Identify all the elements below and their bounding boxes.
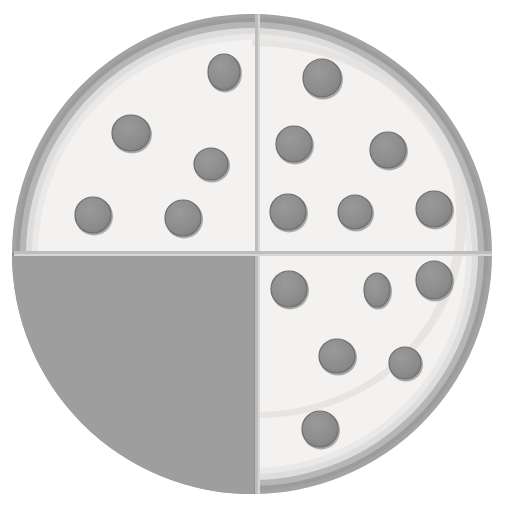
vertical-cut-line-shade [258,14,260,500]
pepperoni-body [75,197,111,233]
horizontal-cut-line-shade [14,254,492,256]
pepperoni-body [303,59,341,97]
pepperoni-body [319,339,355,373]
pepperoni-body [389,347,421,379]
pepperoni-body [416,261,452,299]
pepperoni-body [370,132,406,168]
pepperoni-body [276,126,312,162]
pepperoni-body [364,273,390,307]
pepperoni-body [271,271,307,307]
pepperoni-body [338,195,372,229]
pepperoni-body [270,194,306,230]
pizza-graphic [0,0,505,513]
empty-slice-bottom-left[interactable] [0,253,257,513]
pepperoni-body [112,115,150,151]
pepperoni-body [416,191,452,227]
pepperoni-body [208,54,240,90]
empty-slice-fill [0,253,257,513]
pepperoni-body [165,200,201,236]
pepperoni-body [302,411,338,447]
pizza-illustration-canvas [0,0,505,513]
pepperoni-body [194,148,228,180]
